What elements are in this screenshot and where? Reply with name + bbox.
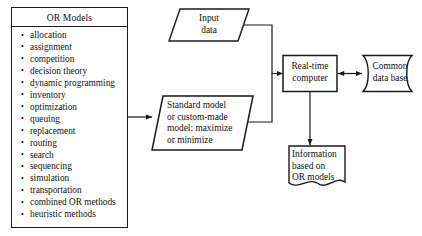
list-item[interactable]: allocation xyxy=(21,30,127,42)
list-item[interactable]: sequencing xyxy=(21,161,127,173)
list-item[interactable]: optimization xyxy=(21,102,127,114)
list-item[interactable]: dynamic programming xyxy=(21,78,127,90)
or-models-list: allocation assignment competition decisi… xyxy=(12,27,127,221)
diagram-canvas: OR Models allocation assignment competit… xyxy=(0,0,422,236)
list-item[interactable]: simulation xyxy=(21,173,127,185)
list-item[interactable]: competition xyxy=(21,54,127,66)
list-item[interactable]: transportation xyxy=(21,185,127,197)
or-models-panel: OR Models allocation assignment competit… xyxy=(11,7,128,228)
list-item[interactable]: combined OR methods xyxy=(21,197,127,209)
list-item[interactable]: queuing xyxy=(21,114,127,126)
list-item[interactable]: routing xyxy=(21,138,127,150)
standard-model-shape[interactable] xyxy=(152,96,253,150)
common-data-base-shape[interactable] xyxy=(363,56,412,92)
list-item[interactable]: heuristic methods xyxy=(21,209,127,221)
connector-input-data-to-computer xyxy=(244,25,283,74)
list-item[interactable]: inventory xyxy=(21,90,127,102)
list-item[interactable]: decision theory xyxy=(21,66,127,78)
or-models-title: OR Models xyxy=(12,8,127,27)
real-time-computer-shape[interactable] xyxy=(283,56,337,92)
input-data-shape[interactable] xyxy=(169,9,249,41)
list-item[interactable]: search xyxy=(21,150,127,162)
information-output-shape[interactable] xyxy=(289,146,345,185)
list-item[interactable]: assignment xyxy=(21,42,127,54)
list-item[interactable]: replacement xyxy=(21,126,127,138)
